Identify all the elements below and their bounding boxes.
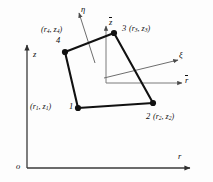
element-quadrilateral bbox=[65, 33, 153, 108]
global-z-axis-label: z bbox=[33, 50, 36, 59]
node-2-number: 2 bbox=[146, 112, 150, 121]
global-r-axis-label: r bbox=[178, 152, 181, 161]
figure-quadrilateral-element: z r o z r η ξ (r4, z4) 4 3 (r3, z3) (r1,… bbox=[0, 0, 213, 182]
natural-eta-label: η bbox=[81, 5, 85, 14]
n4-close: ) bbox=[60, 25, 63, 34]
node-1-coordinates: (r1, z1) bbox=[30, 103, 51, 112]
node-marker-1 bbox=[75, 105, 81, 111]
local-rbar-letter: r bbox=[185, 75, 188, 85]
n1-close: ) bbox=[49, 102, 52, 111]
node-2-coordinates: (r2, z2) bbox=[153, 113, 174, 122]
node-marker-3 bbox=[111, 30, 117, 36]
n2-close: ) bbox=[172, 112, 175, 121]
n3-close: ) bbox=[148, 24, 151, 33]
node-3-number: 3 bbox=[122, 24, 126, 33]
local-zbar-axis-label: z bbox=[109, 18, 112, 27]
node-4-coordinates: (r4, z4) bbox=[41, 26, 62, 35]
node-marker-2 bbox=[150, 100, 156, 106]
natural-eta-axis bbox=[79, 13, 95, 63]
node-1-number: 1 bbox=[69, 102, 73, 111]
local-rbar-axis-label: r bbox=[185, 76, 188, 85]
origin-label: o bbox=[16, 162, 20, 171]
node-4-number: 4 bbox=[56, 36, 60, 45]
node-3-coordinates: (r3, z3) bbox=[129, 25, 150, 34]
node-marker-4 bbox=[62, 49, 68, 55]
local-zbar-letter: z bbox=[109, 17, 112, 27]
natural-xi-axis bbox=[104, 60, 178, 78]
natural-xi-label: ξ bbox=[179, 51, 183, 60]
